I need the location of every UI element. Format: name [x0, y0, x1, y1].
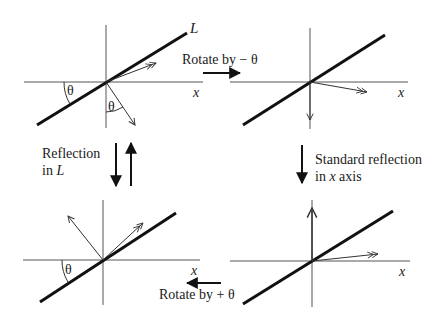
theta-label-1: θ	[67, 83, 74, 99]
x-axis-label-bottom-right: x	[399, 264, 405, 280]
rotate-minus-label: Rotate by − θ	[182, 52, 258, 68]
theta-label-2: θ	[108, 99, 115, 115]
vector-double-arrow	[310, 82, 367, 92]
standard-reflection-prefix: in	[315, 169, 329, 184]
reflection-label-prefix: in	[42, 163, 56, 178]
x-axis-label-bottom-left: x	[191, 263, 197, 279]
standard-reflection-line1: Standard reflection	[315, 152, 422, 168]
line-L	[40, 213, 176, 302]
standard-reflection-suffix: axis	[336, 169, 362, 184]
panel-top-right	[230, 28, 408, 129]
rotate-plus-label: Rotate by + θ	[159, 287, 235, 303]
panel-bottom-right	[230, 200, 410, 307]
x-axis-label-top-right: x	[398, 85, 404, 101]
vector-single-arrow	[68, 216, 103, 260]
standard-reflection-line2: in x axis	[315, 169, 362, 185]
reflection-label-var: L	[56, 163, 64, 178]
line-label-L: L	[190, 20, 198, 36]
reflection-label-line2: in L	[42, 163, 64, 179]
theta-label-bottom-left: θ	[65, 262, 72, 278]
x-axis-label-top-left: x	[193, 85, 199, 101]
line-L	[243, 211, 393, 304]
line-L	[243, 35, 385, 125]
reflection-label-line1: Reflection	[42, 146, 100, 162]
vector-double-arrow	[103, 223, 143, 260]
